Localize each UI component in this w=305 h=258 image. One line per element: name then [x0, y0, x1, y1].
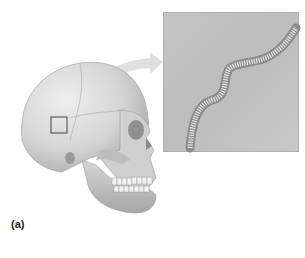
- skull-suture-figure: (a): [0, 0, 305, 258]
- ear-canal: [65, 152, 75, 164]
- panel-label: (a): [11, 218, 24, 230]
- suture-line: [190, 28, 296, 148]
- skull-illustration: [0, 0, 305, 258]
- orbit: [128, 120, 144, 140]
